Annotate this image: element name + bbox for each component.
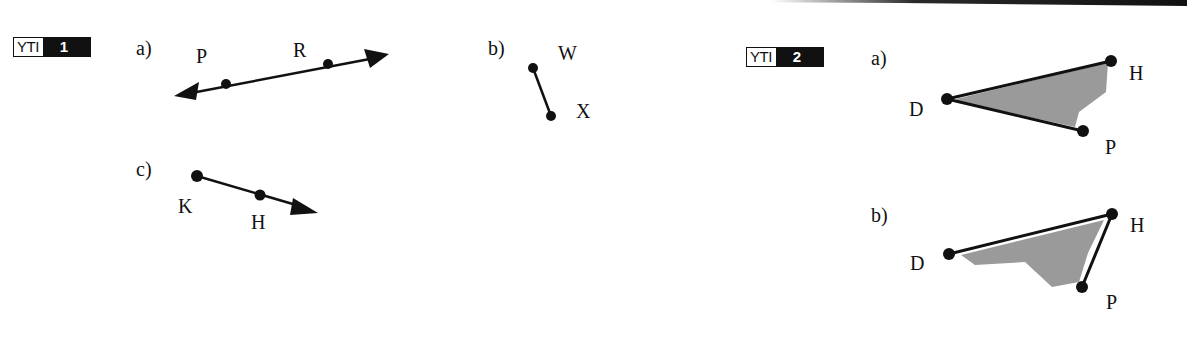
point-D xyxy=(941,93,953,105)
point-W xyxy=(528,63,538,73)
arrowhead-left-icon xyxy=(174,82,199,100)
point-label-P-a: P xyxy=(1105,137,1116,157)
angle-shading xyxy=(961,220,1104,287)
point-P xyxy=(1077,125,1089,137)
point-label-W: W xyxy=(558,43,577,63)
point-P xyxy=(221,79,231,89)
point-label-D-b: D xyxy=(910,253,924,273)
yti2-badge-number: 2 xyxy=(777,48,823,66)
point-H xyxy=(1105,55,1117,67)
yti1-part-a-label: a) xyxy=(136,38,152,58)
point-label-H: H xyxy=(251,212,265,232)
angle-HDP xyxy=(941,55,1117,137)
arrowhead-right-icon xyxy=(290,198,318,215)
yti2-part-a-label: a) xyxy=(871,48,887,68)
angle-DHP xyxy=(943,208,1118,293)
point-R xyxy=(323,59,333,69)
ray-KH xyxy=(191,170,318,215)
point-D xyxy=(943,248,955,260)
point-label-R: R xyxy=(293,40,306,60)
arrowhead-right-icon xyxy=(364,49,389,68)
point-label-P-b: P xyxy=(1106,292,1117,312)
yti1-badge: YTI 1 xyxy=(13,37,91,57)
geometry-figures xyxy=(0,0,1187,338)
yti1-part-b-label: b) xyxy=(488,38,505,58)
point-X xyxy=(546,111,556,121)
yti2-part-b-label: b) xyxy=(871,205,888,225)
point-H xyxy=(255,190,266,201)
point-label-H-a: H xyxy=(1129,63,1143,83)
point-P xyxy=(1076,281,1088,293)
point-label-K: K xyxy=(178,196,192,216)
point-label-H-b: H xyxy=(1130,215,1144,235)
point-H xyxy=(1106,208,1118,220)
yti1-badge-number: 1 xyxy=(44,38,90,56)
angle-shading xyxy=(956,62,1108,127)
yti2-badge: YTI 2 xyxy=(746,47,824,67)
point-K xyxy=(191,170,203,182)
yti2-badge-label: YTI xyxy=(747,48,777,66)
yti1-badge-label: YTI xyxy=(14,38,44,56)
header-rule xyxy=(0,0,1187,12)
point-label-X: X xyxy=(576,101,590,121)
segment-WX xyxy=(528,63,556,121)
point-label-D-a: D xyxy=(909,99,923,119)
yti1-part-c-label: c) xyxy=(136,159,152,179)
point-label-P: P xyxy=(196,46,207,66)
